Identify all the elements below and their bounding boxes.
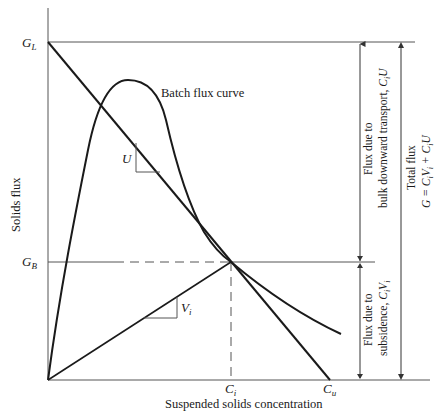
ci-label: Ci [225,381,237,398]
batch-flux-curve [48,80,341,380]
slope-triangle-u [136,143,160,172]
svg-text:Flux due to: Flux due to [362,293,374,346]
total-flux-annotation: Total flux G = CiVi + CiU [405,135,435,208]
y-axis-title: Solids flux [9,177,23,232]
bulk-flux-annotation: Flux due to bulk downward transport, CiU [362,68,392,208]
x-axis-title: Suspended solids concentration [165,397,323,411]
svg-text:bulk downward transport, CiU: bulk downward transport, CiU [377,68,392,208]
svg-text:Total flux: Total flux [405,145,417,190]
batch-flux-curve-label: Batch flux curve [161,86,245,100]
total-flux-arrow [398,42,404,380]
svg-text:subsidence, CiVi: subsidence, CiVi [377,281,392,356]
subsidence-flux-annotation: Flux due to subsidence, CiVi [362,281,392,356]
gb-label: GB [22,254,37,271]
cu-label: Cu [323,381,337,398]
vi-slope-label: Vi [181,300,192,317]
u-slope-label: U [122,151,133,166]
svg-text:G = CiVi + CiU: G = CiVi + CiU [420,135,435,208]
svg-text:Flux due to: Flux due to [362,122,374,175]
solids-flux-diagram: GL GB Ci Cu Suspended solids concentrati… [0,0,440,419]
subsidence-line [48,262,231,380]
gl-label: GL [22,35,36,52]
